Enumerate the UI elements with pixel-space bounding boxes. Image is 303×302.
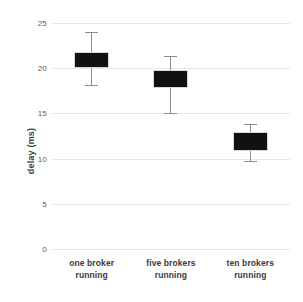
plot-area (52, 23, 290, 249)
x-axis-tick-label-line: running (211, 269, 290, 281)
box-plot-item (211, 23, 290, 249)
box-rect (233, 132, 268, 151)
x-axis-tick-label-line: running (52, 269, 131, 281)
box-rect (74, 52, 109, 68)
box-plot-item (131, 23, 210, 249)
whisker-cap-low (164, 113, 177, 114)
whisker-cap-low (244, 161, 257, 162)
y-axis-title: delay (ms) (26, 128, 36, 175)
box-plot-chart: delay (ms) 0510152025 one brokerrunningf… (0, 0, 303, 302)
y-axis-tick-label: 20 (21, 64, 47, 73)
whisker-cap-low (85, 85, 98, 86)
x-axis-tick-label: one brokerrunning (52, 257, 131, 281)
y-axis-tick-label: 15 (21, 109, 47, 118)
x-axis-tick-label-line: running (131, 269, 210, 281)
x-axis-tick-label-line: ten brokers (211, 257, 290, 269)
y-axis-tick-label: 0 (21, 245, 47, 254)
whisker-cap-high (164, 56, 177, 57)
box-rect (153, 70, 188, 88)
gridline (52, 249, 290, 250)
y-axis-tick-label: 5 (21, 199, 47, 208)
x-axis-tick-label-line: one broker (52, 257, 131, 269)
x-axis-tick-label: five brokersrunning (131, 257, 210, 281)
whisker-cap-high (244, 124, 257, 125)
y-axis-tick-label: 10 (21, 154, 47, 163)
whisker-cap-high (85, 32, 98, 33)
x-axis-tick-label-line: five brokers (131, 257, 210, 269)
x-axis-tick-label: ten brokersrunning (211, 257, 290, 281)
box-plot-item (52, 23, 131, 249)
y-axis-tick-label: 25 (21, 19, 47, 28)
